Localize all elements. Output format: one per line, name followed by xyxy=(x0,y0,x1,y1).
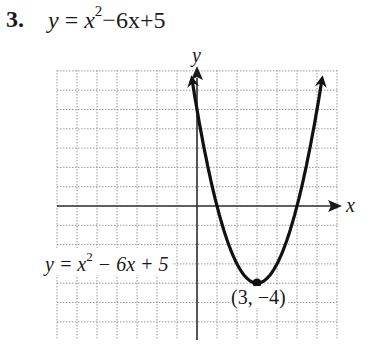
y-axis-label: y xyxy=(192,44,201,67)
curve-label-prefix: y = x xyxy=(45,253,86,275)
vertex-label: (3, −4) xyxy=(229,286,288,308)
curve-label-rest: − 6x + 5 xyxy=(93,253,169,275)
curve-label: y = x2 − 6x + 5 xyxy=(42,248,172,275)
x-axis-label: x xyxy=(346,194,355,217)
curve-label-exponent: 2 xyxy=(86,249,93,264)
graph xyxy=(0,0,375,351)
